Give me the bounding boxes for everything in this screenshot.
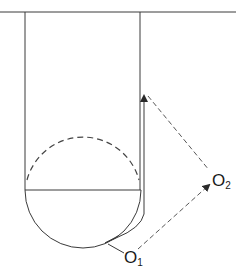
label-o2-main: O	[212, 171, 225, 190]
dashed-line-to-o2	[148, 96, 209, 170]
o1-leader	[108, 244, 124, 253]
label-o1-main: O	[124, 248, 137, 267]
offset-path-tick	[105, 236, 118, 243]
dashed-arrow-o1-o2	[138, 185, 209, 249]
diagram-canvas	[0, 0, 251, 278]
label-o1: O1	[124, 249, 143, 268]
label-o2: O2	[212, 172, 231, 191]
label-o2-sub: 2	[225, 180, 231, 191]
dashed-upper-arc	[27, 137, 139, 180]
offset-path	[105, 96, 144, 243]
lower-semicircle	[25, 190, 141, 248]
label-o1-sub: 1	[137, 257, 143, 268]
